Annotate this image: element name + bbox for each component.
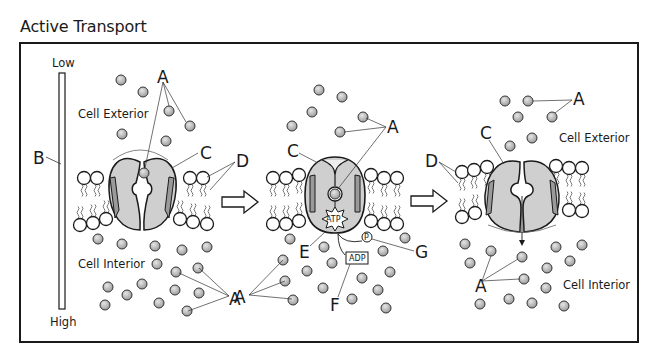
label-c-2: C	[287, 141, 299, 161]
step-arrow-1	[222, 191, 258, 213]
stage-3-open-to-interior: Cell Exterior Cell Interior A	[425, 89, 630, 311]
label-b: B	[33, 148, 45, 168]
active-transport-diagram: Low High B Cell Exterior Cell Interior	[0, 0, 657, 351]
carrier-protein-open-interior	[485, 161, 559, 246]
cell-interior-label: Cell Interior	[78, 257, 145, 271]
carrier-protein-atp-bound: ATP	[305, 157, 365, 233]
label-e: E	[299, 242, 310, 262]
adp-label: ADP	[349, 254, 366, 263]
label-a-exterior-2: A	[387, 117, 399, 137]
label-a-exterior-3: A	[573, 89, 585, 109]
step-arrow-2	[411, 190, 447, 212]
label-g: G	[415, 242, 428, 262]
cell-interior-label-right: Cell Interior	[563, 278, 630, 292]
atp-label: ATP	[326, 215, 341, 224]
gradient-low-label: Low	[52, 56, 75, 70]
carrier-protein-open-exterior	[109, 150, 176, 230]
stage-1-open-to-exterior: Cell Exterior Cell Interior A	[74, 67, 250, 316]
stage-2-atp-binding: ATP P ADP A C E F G	[249, 85, 428, 315]
cell-exterior-label: Cell Exterior	[78, 107, 149, 121]
label-c-1: C	[200, 143, 212, 163]
concentration-gradient-bar: Low High B	[33, 56, 76, 329]
label-d-3: D	[425, 151, 438, 171]
gradient-high-label: High	[50, 315, 76, 329]
label-d-1: D	[236, 151, 249, 171]
label-f: F	[330, 295, 340, 315]
phosphate-label: P	[364, 233, 369, 242]
cell-exterior-label-right: Cell Exterior	[559, 131, 630, 145]
label-a-interior-shared: A	[234, 287, 246, 307]
label-c-3: C	[480, 123, 492, 143]
label-a-exterior-1: A	[157, 67, 169, 87]
